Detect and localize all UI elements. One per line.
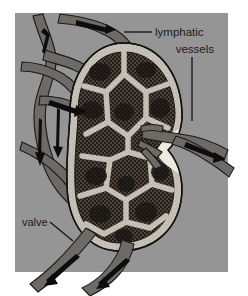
label-lymphatic-line1: lymphatic [155,26,204,38]
efferent-vessel-prong-upper [141,125,163,133]
label-lymphatic-line2: vessels [176,43,215,55]
lymph-node-figure: lymphatic vessels valve [0,0,248,296]
label-valve: valve [22,216,48,228]
lymph-node [60,40,190,255]
diagram-canvas: lymphatic vessels valve [0,0,248,296]
